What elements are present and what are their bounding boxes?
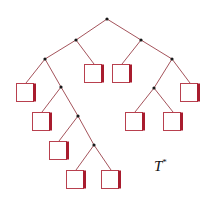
tree-edge (154, 88, 173, 112)
internal-node-dot (92, 143, 95, 146)
tree-edge (107, 19, 141, 40)
internal-node-dot (152, 86, 155, 89)
tree-edge (26, 59, 45, 83)
leaf-box (17, 84, 37, 102)
tree-edge (76, 19, 107, 40)
tree-edge (122, 40, 141, 64)
tree-edge (45, 59, 61, 87)
tree-edge (76, 145, 94, 170)
tree-edge (78, 116, 94, 145)
tree-edge (172, 59, 190, 83)
leaf-box (33, 113, 53, 131)
internal-node-dot (59, 85, 62, 88)
internal-node-dot (74, 38, 77, 41)
internal-node-dot (76, 114, 79, 117)
leaf-box (126, 113, 146, 131)
tree-leaves (17, 65, 201, 189)
leaf-box (50, 142, 70, 160)
tree-edge (42, 87, 61, 112)
internal-node-dot (105, 17, 108, 20)
leaf-box (164, 113, 184, 131)
tree-internal-nodes (43, 17, 173, 146)
internal-node-dot (139, 38, 142, 41)
tree-label: T* (154, 157, 167, 175)
tree-edge (45, 40, 76, 59)
tree-edge (61, 87, 78, 116)
leaf-box (85, 65, 105, 83)
tree-edge (141, 40, 172, 59)
tree-edge (154, 59, 172, 88)
tree-diagram (0, 0, 214, 201)
leaf-box (181, 84, 201, 102)
tree-edge (94, 145, 111, 170)
leaf-box (113, 65, 133, 83)
tree-edge (135, 88, 154, 112)
tree-label-superscript: * (162, 157, 167, 167)
tree-edge (76, 40, 94, 64)
leaf-box (67, 171, 87, 189)
leaf-box (102, 171, 122, 189)
internal-node-dot (43, 57, 46, 60)
internal-node-dot (170, 57, 173, 60)
tree-edge (59, 116, 78, 141)
